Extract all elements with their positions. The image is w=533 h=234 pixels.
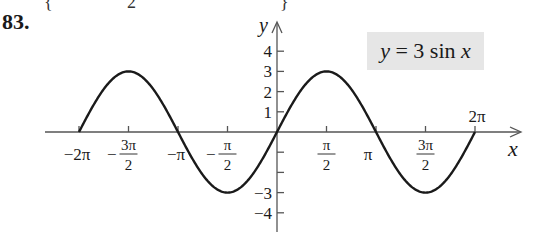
svg-text:3π: 3π <box>121 137 137 153</box>
x-tick-label: 3π2 <box>417 137 435 173</box>
x-tick-label: −2π <box>64 145 91 164</box>
y-tick-label: 2 <box>264 83 273 102</box>
y-tick-label: 1 <box>264 103 273 122</box>
equation-var: x <box>461 38 471 64</box>
svg-text:π: π <box>224 137 232 153</box>
svg-text:π: π <box>323 137 331 153</box>
svg-text:−: − <box>107 145 117 164</box>
x-tick-label: 3π2− <box>107 137 138 173</box>
svg-text:3π: 3π <box>418 137 434 153</box>
x-tick-label: 2π <box>468 107 486 126</box>
equation-middle: = 3 sin <box>390 38 461 64</box>
chart-figure: { 2 } 83. xy−2π3π2−−ππ2−π2π3π22π−4−31234… <box>0 0 533 234</box>
equation-label: y = 3 sin x <box>367 32 484 70</box>
equation-lhs: y <box>380 38 390 64</box>
y-axis-label: y <box>257 14 268 37</box>
x-tick-label: −π <box>167 145 186 164</box>
x-axis-label: x <box>507 136 518 161</box>
x-tick-label: π2 <box>318 137 336 173</box>
svg-text:2: 2 <box>224 157 232 173</box>
svg-text:2: 2 <box>323 157 331 173</box>
x-tick-label: π <box>364 145 373 164</box>
y-tick-label: 4 <box>264 42 273 61</box>
y-tick-label: −4 <box>254 204 273 223</box>
x-tick-label: π2− <box>206 137 237 173</box>
y-tick-label: −3 <box>254 184 272 203</box>
svg-text:−: − <box>206 145 216 164</box>
y-tick-label: 3 <box>264 62 273 81</box>
svg-text:2: 2 <box>422 157 430 173</box>
svg-text:2: 2 <box>125 157 133 173</box>
